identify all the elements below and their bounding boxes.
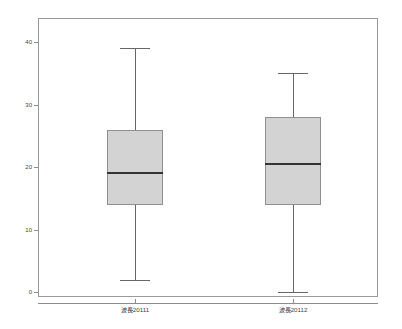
y-axis-tick-mark <box>34 42 38 43</box>
box-iqr-rect <box>107 130 163 205</box>
upper-whisker-line <box>135 48 136 129</box>
lower-whisker-line <box>135 205 136 280</box>
y-axis-tick-label: 40 <box>25 39 32 45</box>
y-axis-tick-label: 20 <box>25 164 32 170</box>
y-axis-tick-mark <box>34 167 38 168</box>
lower-whisker-cap <box>120 280 150 281</box>
upper-whisker-line <box>293 73 294 117</box>
y-axis-tick-label: 0 <box>29 289 32 295</box>
lower-whisker-line <box>293 205 294 293</box>
upper-whisker-cap <box>120 48 150 49</box>
lower-whisker-cap <box>278 292 308 293</box>
boxplot-chart: 403020100 波長20111波長20112 <box>0 0 402 329</box>
x-axis-tick-mark <box>135 299 136 303</box>
upper-whisker-cap <box>278 73 308 74</box>
y-axis-tick-mark <box>34 230 38 231</box>
y-axis-tick-label: 10 <box>25 227 32 233</box>
y-axis-tick-label: 30 <box>25 102 32 108</box>
x-axis-baseline <box>38 303 378 304</box>
median-line <box>265 163 321 165</box>
plot-area <box>38 18 378 297</box>
y-axis-tick-mark <box>34 105 38 106</box>
box-iqr-rect <box>265 117 321 205</box>
x-axis-tick-label: 波長20111 <box>121 307 149 313</box>
median-line <box>107 172 163 174</box>
y-axis-tick-mark <box>34 292 38 293</box>
x-axis-tick-mark <box>293 299 294 303</box>
x-axis-tick-label: 波長20112 <box>279 307 308 313</box>
